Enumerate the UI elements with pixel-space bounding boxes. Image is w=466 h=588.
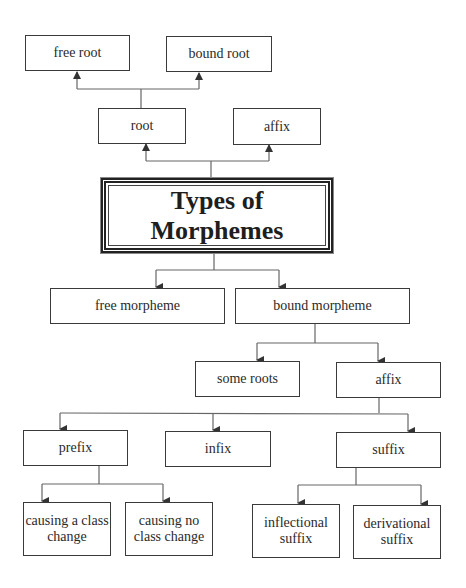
node-causing-a-class-change: causing a class change [23,502,111,556]
node-suffix: suffix [336,432,441,468]
node-root: root [98,108,186,144]
node-label-line-1: inflectional [264,515,328,531]
node-label: free morpheme [95,298,180,314]
node-affix-mid: affix [336,362,441,398]
node-label: affix [264,119,290,135]
node-label: prefix [59,440,92,456]
title-inner-border [108,185,326,246]
node-label-line-2: class change [134,529,204,545]
node-label-line-1: causing a class [25,513,108,529]
node-free-morpheme: free morpheme [50,288,225,324]
node-label-line-1: derivational [364,516,431,532]
node-bound-morpheme: bound morpheme [235,288,410,324]
node-label-line-1: causing no [134,513,204,529]
node-infix: infix [165,431,271,467]
node-causing-no-class-change: causing no class change [125,502,213,556]
node-label: affix [375,372,401,388]
node-free-root: free root [25,35,130,71]
node-label: some roots [217,371,278,387]
node-label-line-2: suffix [264,531,328,547]
node-inflectional-suffix: inflectional suffix [252,504,340,558]
node-label: suffix [372,442,404,458]
node-label: bound morpheme [273,298,371,314]
node-label-line-2: change [25,529,108,545]
node-label: root [131,118,154,134]
node-label-line-2: suffix [364,532,431,548]
node-label: infix [205,441,231,457]
node-some-roots: some roots [195,361,300,397]
node-label: free root [54,45,102,61]
node-prefix: prefix [23,430,128,466]
node-label: bound root [188,46,249,62]
node-types-of-morphemes: Types of Morphemes [101,178,333,253]
node-bound-root: bound root [166,36,272,72]
node-derivational-suffix: derivational suffix [353,505,441,559]
node-affix-top: affix [233,108,321,145]
